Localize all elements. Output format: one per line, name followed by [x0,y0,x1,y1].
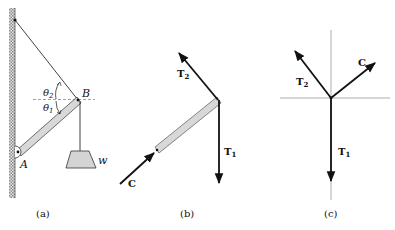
t2-label-b: T2 [177,68,189,81]
pivot-pin-a [17,151,20,154]
weight-block [66,151,96,168]
free-body-diagram-figure: θ2 θ1 B A w (a) T2 T1 C (b) T2 C T1 (c) [0,0,395,230]
strut-rod-fbd [155,97,221,153]
point-a-label: A [19,158,28,171]
joint-b [77,99,80,102]
caption-c: (c) [324,208,338,219]
caption-a: (a) [36,208,50,219]
t2-label-c: T2 [296,76,308,89]
t1-label-b: T1 [224,146,236,159]
theta1-label: θ1 [43,102,54,115]
theta2-label: θ2 [43,87,54,100]
t1-label-c: T1 [338,146,350,159]
origin-point [330,97,333,100]
t2-force-arrow-c [295,51,331,98]
c-force-arrow [120,153,154,184]
c-label-b: C [128,178,136,189]
panel-c: T2 C T1 (c) [280,30,390,219]
panel-a: θ2 θ1 B A w (a) [9,8,108,219]
panel-b: T2 T1 C (b) [120,53,236,219]
theta1-arc [56,101,60,114]
wall [9,8,15,198]
theta2-arc [56,83,59,99]
c-force-arrow-c [331,63,375,98]
caption-b: (b) [180,208,194,219]
point-b-label: B [81,87,90,100]
c-label-c: C [358,57,366,68]
weight-label: w [98,154,108,167]
rod-end-pin [156,149,159,152]
